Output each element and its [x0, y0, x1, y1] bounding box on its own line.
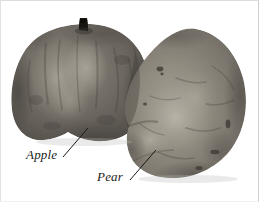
- pear-label: Pear: [97, 170, 123, 183]
- photograph: Apple Pear: [0, 0, 259, 202]
- pear-ground-shadow: [138, 175, 238, 183]
- figure-container: Apple Pear: [0, 0, 265, 203]
- apple-label: Apple: [26, 148, 57, 161]
- fruit-photograph-artwork: [0, 0, 259, 202]
- apple-stem-shadow: [75, 28, 93, 35]
- apple-ground-shadow: [36, 138, 132, 146]
